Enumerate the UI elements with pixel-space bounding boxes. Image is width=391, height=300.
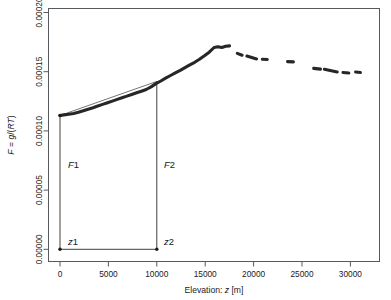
data-segment-7 [343, 73, 349, 74]
y-ticklabel-3: 0.00015 [34, 56, 44, 86]
x-axis-title-suffix: [m] [229, 285, 243, 295]
y-axis-title: F = g/(RT) [6, 115, 16, 154]
marker-point-z2 [155, 248, 158, 251]
marker-point-z1 [58, 248, 61, 251]
data-segment-5 [314, 68, 321, 69]
marker-point-F1 [58, 114, 61, 117]
y-axis-title-close: ) [6, 115, 16, 118]
data-segment-1 [237, 53, 242, 55]
x-ticklabel-0: 0 [58, 269, 63, 279]
y-ticklabel-2: 0.00010 [34, 116, 44, 146]
data-segment-8 [356, 72, 361, 73]
annotation-F1: F1 [68, 159, 79, 170]
x-axis-title-prefix: Elevation: [185, 285, 225, 295]
y-axis-title-RT: RT [6, 118, 16, 130]
y-ticklabel-1: 0.00005 [34, 175, 44, 205]
x-ticklabel-2: 10000 [145, 269, 168, 279]
chart-svg: 0.00020 0.00015 0.00010 0.00005 0.00000 … [0, 0, 391, 300]
y-ticklabel-4: 0.00020 [34, 0, 44, 28]
y-ticklabel-0: 0.00000 [34, 234, 44, 264]
annotation-z2: z2 [163, 236, 174, 247]
x-axis-title: Elevation: z [m] [185, 285, 244, 295]
x-ticklabel-1: 5000 [99, 269, 118, 279]
chart-figure: 0.00020 0.00015 0.00010 0.00005 0.00000 … [0, 0, 391, 300]
annotation-z1: z1 [67, 236, 78, 247]
x-ticklabel-5: 25000 [290, 269, 313, 279]
annotation-F2: F2 [164, 159, 175, 170]
chart-background [0, 0, 391, 300]
x-ticklabel-3: 15000 [194, 269, 217, 279]
x-ticklabel-6: 30000 [339, 269, 362, 279]
x-ticklabel-4: 20000 [242, 269, 265, 279]
y-axis-title-eq: = [6, 140, 16, 150]
